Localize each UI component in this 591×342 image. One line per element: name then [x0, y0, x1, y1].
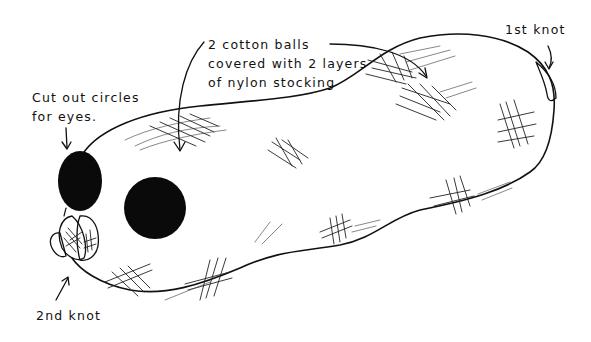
first-knot-shape	[536, 62, 556, 101]
label-second-knot: 2nd knot	[36, 306, 101, 325]
label-first-knot: 1st knot	[505, 20, 566, 39]
left-eye-hole	[58, 151, 102, 211]
right-eye-hole	[124, 177, 186, 239]
label-cotton-balls: 2 cotton balls covered with 2 layers of …	[208, 35, 368, 92]
label-eyes: Cut out circles for eyes.	[32, 88, 140, 126]
second-knot-shape	[50, 208, 98, 260]
